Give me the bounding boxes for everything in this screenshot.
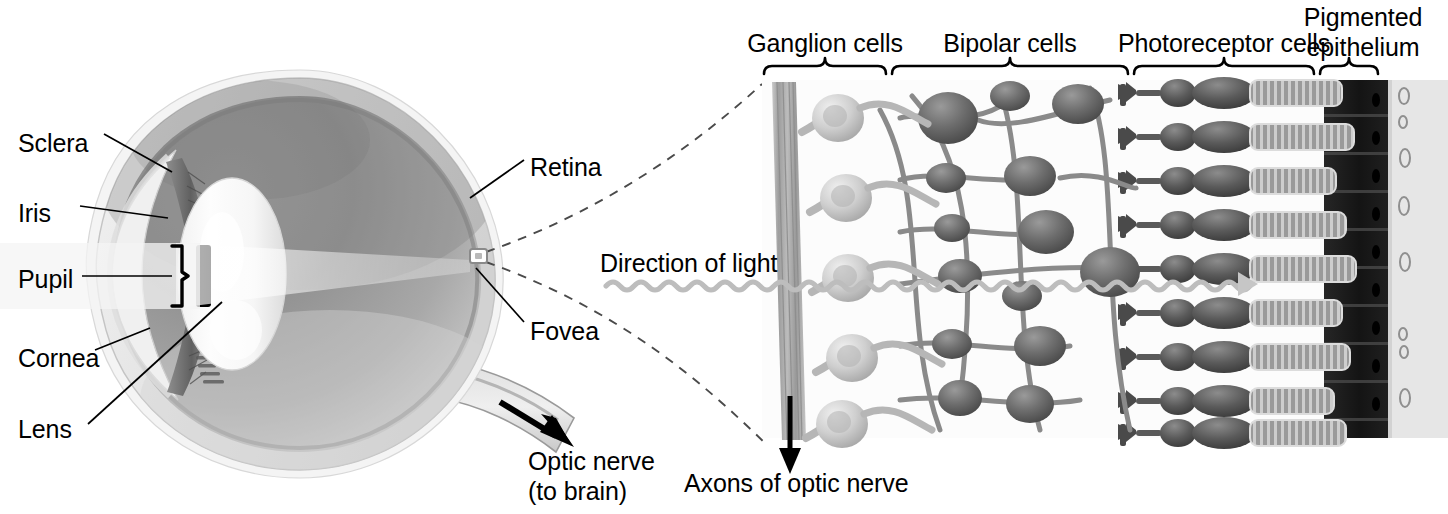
- bipolar-cell: [1004, 156, 1056, 196]
- label-pupil: Pupil: [18, 264, 73, 294]
- bipolar-cell: [1018, 210, 1074, 254]
- label-ganglion-cells: Ganglion cells: [725, 28, 925, 58]
- label-direction-of-light: Direction of light: [600, 248, 777, 278]
- label-lens: Lens: [18, 414, 72, 444]
- label-cornea: Cornea: [18, 343, 99, 373]
- label-bipolar-cells: Bipolar cells: [915, 28, 1105, 58]
- label-fovea: Fovea: [530, 316, 599, 346]
- bipolar-cell: [932, 329, 972, 359]
- label-retina: Retina: [530, 152, 602, 182]
- pigmented-line2: epithelium: [1282, 32, 1444, 62]
- pigmented-line1: Pigmented: [1282, 2, 1444, 32]
- label-pigmented-epithelium: Pigmented epithelium: [1282, 2, 1444, 62]
- bipolar-cell: [926, 163, 966, 193]
- label-sclera: Sclera: [18, 128, 88, 158]
- brace-ganglion: [764, 58, 886, 74]
- bipolar-cell: [1052, 84, 1104, 124]
- label-optic-nerve: Optic nerve (to brain): [528, 446, 655, 506]
- brace-bipolar: [892, 58, 1128, 74]
- label-axons-of-optic-nerve: Axons of optic nerve: [684, 468, 909, 498]
- label-iris: Iris: [18, 198, 51, 228]
- fovea-callout-box: [470, 249, 487, 263]
- bipolar-cell: [990, 81, 1030, 111]
- bipolar-cell: [1014, 326, 1066, 366]
- bipolar-cell: [934, 214, 970, 242]
- bipolar-cell: [1006, 385, 1054, 423]
- eye-anatomy-figure: Sclera Iris Pupil Cornea Lens Retina Fov…: [0, 0, 1448, 514]
- bipolar-cell: [918, 92, 978, 144]
- optic-nerve-line1: Optic nerve: [528, 446, 655, 476]
- bipolar-cell: [938, 380, 982, 416]
- optic-nerve-line2: (to brain): [528, 476, 655, 506]
- choroid-strip: [1390, 80, 1448, 438]
